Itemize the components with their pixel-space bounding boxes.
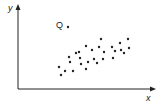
data-point — [128, 47, 130, 49]
data-point — [78, 51, 80, 53]
data-point — [111, 46, 113, 48]
data-point — [85, 68, 87, 70]
data-point — [93, 58, 95, 60]
y-axis-label: y — [7, 3, 13, 13]
x-axis-arrow-icon — [150, 87, 156, 92]
data-point — [87, 61, 89, 63]
data-point — [85, 45, 87, 47]
data-point — [69, 61, 71, 63]
data-point — [103, 51, 105, 53]
data-point — [80, 63, 82, 65]
axes — [16, 4, 157, 92]
x-axis-label: x — [145, 93, 151, 103]
data-point — [114, 50, 116, 52]
data-point — [127, 38, 129, 40]
data-point — [123, 52, 125, 54]
data-point — [72, 70, 74, 72]
scatter-plot: x y Q — [0, 0, 162, 108]
data-point — [119, 42, 121, 44]
data-point — [98, 46, 100, 48]
outlier-label: Q — [56, 20, 63, 30]
data-points — [58, 26, 130, 76]
data-point — [79, 57, 81, 59]
data-point — [120, 49, 122, 51]
outlier-point — [67, 26, 69, 28]
y-axis-arrow-icon — [16, 4, 21, 10]
data-point — [112, 57, 114, 59]
data-point — [100, 38, 102, 40]
data-point — [96, 62, 98, 64]
data-point — [91, 49, 93, 51]
data-point — [68, 56, 70, 58]
data-point — [75, 52, 77, 54]
data-point — [58, 66, 60, 68]
data-point — [64, 70, 66, 72]
data-point — [60, 74, 62, 76]
data-point — [102, 58, 104, 60]
